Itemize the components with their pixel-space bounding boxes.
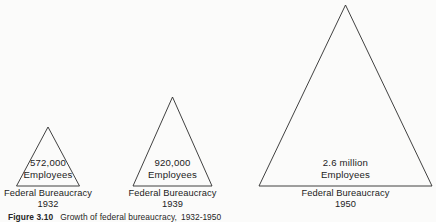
figure-caption-label: Figure 3.10 <box>8 212 53 222</box>
triangle-caption-1950: Federal Bureaucracy 1950 <box>295 188 396 210</box>
base-year: 1939 <box>122 199 223 210</box>
triangle-value-label-1932: 572,000 Employees <box>0 157 96 180</box>
value-line-2: Employees <box>296 169 395 181</box>
value-line-1: 920,000 <box>154 157 190 168</box>
base-line-1: Federal Bureaucracy <box>301 188 389 198</box>
base-year: 1932 <box>0 199 98 210</box>
base-year: 1950 <box>295 199 396 210</box>
value-line-2: Employees <box>0 169 96 181</box>
value-line-1: 572,000 <box>30 157 66 168</box>
figure-caption-years: 1932-1950 <box>181 212 221 222</box>
figure-growth-of-federal-bureaucracy: 572,000 Employees Federal Bureaucracy 19… <box>0 0 436 222</box>
triangle-value-label-1939: 920,000 Employees <box>124 157 221 180</box>
figure-caption-text: Growth of federal bureaucracy, <box>60 212 177 222</box>
base-line-1: Federal Bureaucracy <box>128 188 216 198</box>
base-line-1: Federal Bureaucracy <box>4 188 92 198</box>
value-line-1: 2.6 million <box>323 157 368 168</box>
triangle-caption-1932: Federal Bureaucracy 1932 <box>0 188 98 210</box>
triangle-caption-1939: Federal Bureaucracy 1939 <box>122 188 223 210</box>
triangle-value-label-1950: 2.6 million Employees <box>296 157 395 180</box>
figure-caption: Figure 3.10Growth of federal bureaucracy… <box>8 212 428 222</box>
value-line-2: Employees <box>124 169 221 181</box>
